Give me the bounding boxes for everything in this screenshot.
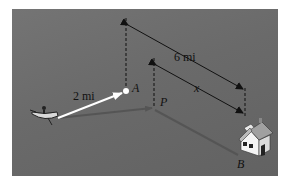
label-B: B	[237, 157, 244, 172]
label-six-mi: 6 mi	[174, 50, 196, 65]
dashed-guides	[126, 18, 245, 116]
path-P-to-B	[155, 110, 238, 155]
rowboat-icon	[30, 106, 58, 125]
label-A: A	[132, 81, 139, 96]
label-two-mi: 2 mi	[73, 89, 95, 104]
point-A-marker	[123, 88, 129, 94]
label-x: x	[194, 81, 199, 96]
label-P: P	[160, 95, 167, 110]
diagram-canvas	[0, 0, 292, 187]
x-dimension	[156, 65, 243, 113]
house-icon	[239, 118, 273, 156]
